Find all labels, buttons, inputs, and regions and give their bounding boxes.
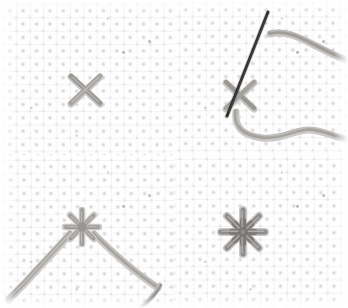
right-floss-tail — [140, 285, 160, 308]
panel-step-3: Further straight stitches added, two flo… — [0, 154, 174, 308]
panel-step-1: A single cross stitch worked on the aida… — [0, 0, 174, 154]
panel-step-4: The completed eight-pointed star stitch — [174, 154, 348, 308]
partial-star-stitch-illustration — [0, 154, 174, 308]
star-stitch-arms — [65, 210, 99, 244]
panel-grid: A single cross stitch worked on the aida… — [0, 0, 348, 308]
needle-and-cross-illustration — [174, 0, 348, 154]
star-stitch-arms — [221, 210, 265, 254]
embroidery-tutorial-scan: A single cross stitch worked on the aida… — [0, 0, 348, 308]
finished-star-stitch-illustration — [174, 154, 348, 308]
cross-stitch-illustration — [0, 0, 174, 154]
panel-step-2: Needle and floss brought up through the … — [174, 0, 348, 154]
cross-stitch-strokes — [71, 76, 100, 104]
